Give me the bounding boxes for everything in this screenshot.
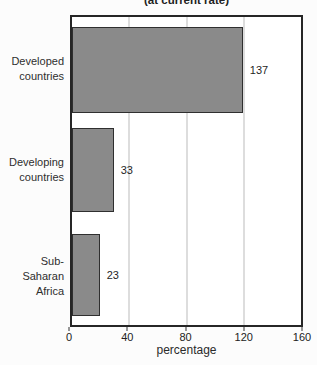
x-tick-label: 80 [179,331,191,343]
bar-value-label: 23 [107,269,119,281]
bar [72,27,243,113]
x-tick-label: 160 [293,331,311,343]
category-label: Sub-Saharan Africa [0,254,64,299]
x-tick-label: 120 [235,331,253,343]
plot-area: 1373323 [70,15,303,327]
bar-value-label: 137 [250,64,268,76]
x-tick-label: 0 [66,331,72,343]
bar-value-label: 33 [121,164,133,176]
category-label: Developed countries [0,54,64,84]
x-axis-label: percentage [70,343,303,357]
bar [72,234,100,317]
chart-title: (at current rate) [70,0,303,6]
x-tick-label: 40 [121,331,133,343]
bar-row: 33 [72,128,301,212]
bar-chart-figure: (at current rate) Developed countriesDev… [0,0,317,365]
category-axis: Developed countriesDeveloping countriesS… [0,15,64,327]
category-label: Developing countries [0,155,64,185]
bar-row: 137 [72,27,301,113]
bar [72,128,114,212]
bar-row: 23 [72,234,301,317]
